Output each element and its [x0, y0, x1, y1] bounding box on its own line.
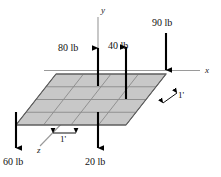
- dimension-right-label: 1': [178, 91, 184, 100]
- force-60lb-label: 60 lb: [3, 157, 23, 167]
- force-80lb-label: 80 lb: [58, 43, 78, 53]
- x-axis-label: x: [205, 66, 209, 75]
- dimension-front-label: 1': [60, 135, 66, 144]
- force-20lb-label: 20 lb: [85, 157, 105, 167]
- dimension-right-marker: [163, 93, 177, 103]
- grid-plate: [16, 74, 166, 125]
- z-axis-label: z: [37, 146, 41, 155]
- y-axis-label: y: [101, 6, 105, 15]
- force-40lb-label: 40 lb: [108, 41, 128, 51]
- diagram-canvas: [0, 0, 221, 177]
- statics-figure: y x z 80 lb 40 lb 90 lb 60 lb 20 lb 1' 1…: [0, 0, 221, 177]
- force-90lb-label: 90 lb: [152, 18, 172, 28]
